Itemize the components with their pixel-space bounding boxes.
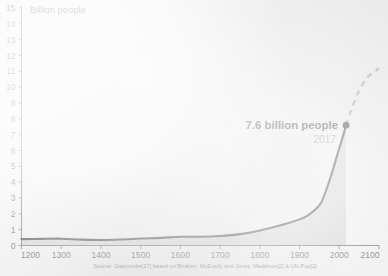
y-axis-tick-label: 12 bbox=[6, 51, 16, 61]
x-axis-tick-label: 1800 bbox=[250, 250, 269, 260]
annotation-year-label: 2017 bbox=[313, 134, 336, 145]
population-chart-figure: 0123456789101112131415 12001300140015001… bbox=[0, 0, 388, 276]
y-axis-tick-label: 2 bbox=[11, 209, 16, 219]
y-axis-tick-label: 13 bbox=[6, 35, 16, 45]
y-axis-tick-label: 9 bbox=[11, 98, 16, 108]
x-axis-tick-label: 2000 bbox=[330, 250, 349, 260]
annotation-value-label: 7.6 billion people bbox=[246, 119, 338, 131]
x-axis-tick-label: 1400 bbox=[91, 250, 110, 260]
y-axis-tick-label: 14 bbox=[6, 19, 16, 29]
y-axis-tick-label: 8 bbox=[11, 114, 16, 124]
y-axis-tick-label: 5 bbox=[11, 161, 16, 171]
y-axis-tick-label: 1 bbox=[11, 225, 16, 235]
x-axis-tick-label: 1600 bbox=[171, 250, 190, 260]
x-axis-tick-label: 1500 bbox=[131, 250, 150, 260]
x-axis-tick-label: 1300 bbox=[52, 250, 71, 260]
y-axis-tick-label: 6 bbox=[11, 146, 16, 156]
x-axis-tick-label: 1700 bbox=[211, 250, 230, 260]
source-note: Source: Gapminder[17] based on Biraben, … bbox=[93, 263, 317, 269]
y-axis-tick-label: 4 bbox=[11, 177, 16, 187]
y-axis-tick-label: 11 bbox=[7, 66, 16, 76]
data-point-marker bbox=[343, 122, 350, 129]
y-axis-title: Billion people bbox=[30, 4, 86, 15]
x-axis-tick-label: 1200 bbox=[21, 250, 40, 260]
chart-canvas: 0123456789101112131415 12001300140015001… bbox=[0, 0, 388, 276]
y-axis-tick-label: 3 bbox=[11, 193, 16, 203]
y-axis-tick-label: 15 bbox=[6, 3, 16, 13]
y-axis-tick-label: 0 bbox=[11, 241, 16, 251]
x-axis-tick-label: 2100 bbox=[360, 250, 379, 260]
y-axis-tick-label: 7 bbox=[11, 130, 16, 140]
y-axis-tick-label: 10 bbox=[6, 82, 16, 92]
x-axis-tick-label: 1900 bbox=[290, 250, 309, 260]
